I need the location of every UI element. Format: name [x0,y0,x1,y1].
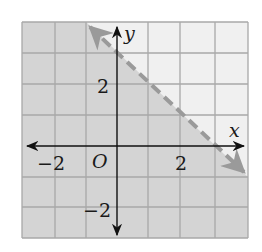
x-tick-label-neg2: −2 [37,152,65,174]
x-tick-label-2: 2 [175,152,187,174]
x-axis-label: x [229,119,240,141]
inequality-graph: x y O −2 2 2 −2 [0,0,262,252]
y-axis-label: y [123,22,135,44]
y-tick-label-2: 2 [97,75,109,97]
y-tick-label-neg2: −2 [83,199,111,221]
origin-label: O [92,150,108,172]
